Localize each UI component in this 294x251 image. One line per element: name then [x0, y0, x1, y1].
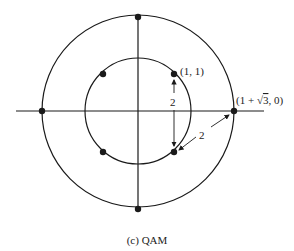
inner-point-q1: [171, 71, 177, 77]
inner-point-q2: [100, 71, 106, 77]
qam-constellation-diagram: 2 2 (1, 1) (1 + √3, 0): [0, 0, 294, 251]
outer-point-bottom: [135, 206, 141, 212]
outer-point-top: [135, 14, 141, 20]
inner-point-q4: [171, 149, 177, 155]
figure-caption: (c) QAM: [0, 234, 294, 246]
vertical-distance-label: 2: [170, 96, 176, 108]
diagonal-arrow-to-outer: [211, 115, 229, 127]
outer-point-label: (1 + √3, 0): [236, 94, 283, 107]
outer-point-right: [231, 108, 237, 114]
inner-point-q3: [100, 149, 106, 155]
outer-point-left: [39, 108, 45, 114]
inner-point-label: (1, 1): [180, 65, 204, 78]
diagonal-distance-label: 2: [199, 129, 205, 141]
diagonal-arrow-to-inner: [179, 137, 196, 150]
